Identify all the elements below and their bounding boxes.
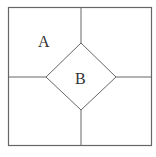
label-b: B: [75, 70, 86, 87]
label-a: A: [38, 33, 50, 50]
square-diagram: A B: [0, 0, 156, 157]
